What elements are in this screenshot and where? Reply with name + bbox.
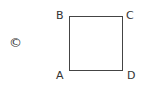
option-c-label: © <box>9 36 22 49</box>
vertex-label-a: A <box>56 70 64 81</box>
vertex-label-c: C <box>126 10 134 21</box>
vertex-label-b: B <box>56 10 64 21</box>
square-abcd <box>69 16 123 71</box>
vertex-label-d: D <box>127 70 135 81</box>
